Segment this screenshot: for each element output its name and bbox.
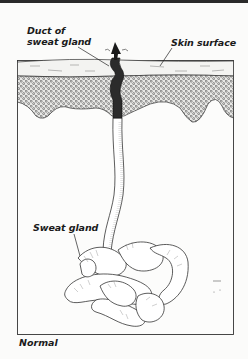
sweat-arrow-icon — [111, 42, 121, 60]
figure-caption: Normal — [19, 337, 58, 348]
skin-surface-layer — [18, 59, 234, 77]
duct-label-line1: Duct of — [27, 25, 91, 36]
sweat-gland-illustration — [0, 0, 248, 359]
skin-surface-label: Skin surface — [171, 37, 236, 48]
duct-label: Duct of sweat gland — [27, 25, 91, 47]
sweat-gland-label: Sweat gland — [33, 222, 98, 233]
duct-label-line2: sweat gland — [27, 36, 91, 47]
